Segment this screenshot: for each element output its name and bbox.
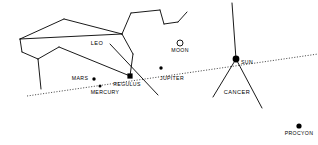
constellation-line-leo <box>130 54 133 76</box>
star-chart: LEOMOONSUNJUPITERMARSMERCURYREGULUSCANCE… <box>0 0 318 145</box>
mercury-marker[interactable] <box>99 85 102 88</box>
sun-marker[interactable] <box>233 56 240 63</box>
sky-map-canvas <box>0 0 318 145</box>
leo-label: LEO <box>91 41 104 47</box>
constellation-line-leo <box>131 10 160 13</box>
mars-marker[interactable] <box>92 77 95 80</box>
constellation-line-leo <box>38 47 59 59</box>
constellation-line-leo <box>178 12 187 22</box>
regulus-marker[interactable] <box>127 73 132 78</box>
constellation-line-leo <box>22 52 38 59</box>
mars-label: MARS <box>72 76 88 81</box>
constellation-line-leo <box>59 47 130 76</box>
regulus-label: REGULUS <box>113 82 141 87</box>
moon-label: MOON <box>171 48 189 53</box>
constellation-line-leo <box>64 19 122 34</box>
cancer-label: CANCER <box>224 90 251 96</box>
constellation-line-leo <box>20 39 22 52</box>
constellation-line-leo <box>20 19 64 39</box>
constellation-line-leo <box>160 10 164 24</box>
jupiter-label: JUPITER <box>160 76 184 81</box>
constellation-line-leo <box>38 59 41 89</box>
moon-marker[interactable] <box>177 40 183 46</box>
constellation-line-leo <box>20 34 122 39</box>
constellation-line-leo <box>122 34 133 54</box>
sun-label: SUN <box>241 60 253 65</box>
procyon-marker[interactable] <box>296 123 301 128</box>
constellation-line-crossing <box>110 44 158 95</box>
constellation-line-leo <box>164 22 178 24</box>
constellation-line-cancer <box>236 59 262 108</box>
procyon-label: PROCYON <box>285 131 314 136</box>
mercury-label: MERCURY <box>91 90 120 95</box>
constellation-line-leo <box>122 13 131 34</box>
constellation-line-cancer <box>232 3 236 59</box>
jupiter-marker[interactable] <box>159 66 162 69</box>
